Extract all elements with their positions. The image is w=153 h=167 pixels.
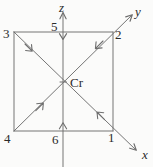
bond-arrowhead-3 [25,44,32,51]
vertex-label-6: 6 [52,133,59,146]
center-atom-label: Cr [70,76,83,89]
bond-arrowhead-1 [97,112,105,120]
vertex-label-5: 5 [51,20,58,33]
vertex-label-2: 2 [115,28,122,41]
vertex-label-1: 1 [108,131,115,144]
axis-label-y: y [135,5,141,18]
vertex-label-4: 4 [4,132,11,145]
axis-label-z: z [59,1,64,14]
bond-arrowhead-4 [36,103,44,111]
axis-label-x: x [142,148,148,161]
vertex-label-3: 3 [3,27,10,40]
coordination-diagram-figure: 3 2 4 1 5 6 Cr z y x [0,0,153,167]
